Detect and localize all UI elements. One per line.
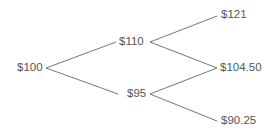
edge-down-updown bbox=[150, 68, 217, 94]
node-up-down: $104.50 bbox=[220, 62, 262, 74]
edge-up-updown bbox=[150, 42, 217, 68]
node-down: $95 bbox=[127, 88, 146, 100]
node-up: $110 bbox=[119, 36, 144, 48]
node-down-down: $90.25 bbox=[221, 115, 256, 127]
node-up-up: $121 bbox=[221, 9, 247, 21]
edge-root-down bbox=[46, 68, 118, 94]
edge-down-downdown bbox=[150, 94, 217, 121]
edge-root-up bbox=[46, 42, 116, 68]
node-root: $100 bbox=[17, 62, 43, 74]
edge-up-upup bbox=[150, 16, 217, 42]
